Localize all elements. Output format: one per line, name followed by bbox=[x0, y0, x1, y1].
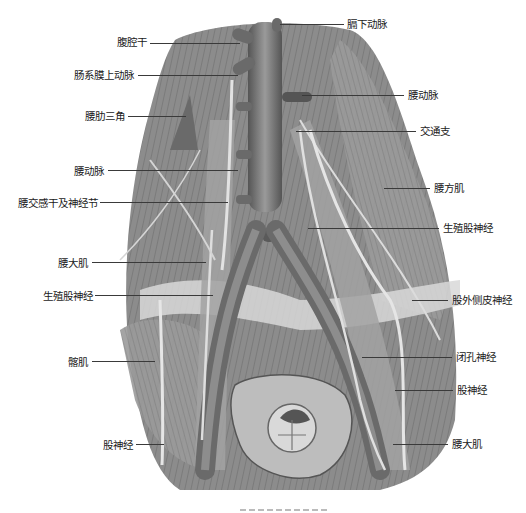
label-genitofemoral-nerve-left: 生殖股神经 bbox=[43, 290, 93, 302]
leader-superior-mesenteric-artery bbox=[138, 75, 238, 76]
label-lumbar-sympathetic-trunk: 腰交感干及神经节 bbox=[18, 197, 98, 209]
label-lumbar-artery: 腰动脉 bbox=[74, 165, 104, 177]
leader-inferior-phrenic-artery bbox=[280, 24, 344, 25]
label-communicating-branch: 交通支 bbox=[420, 125, 450, 137]
leader-lumbar-sympathetic-trunk bbox=[100, 202, 228, 203]
label-lateral-femoral-cutaneous-nerve: 股外侧皮神经 bbox=[452, 294, 512, 306]
label-femoral-nerve-left: 股神经 bbox=[103, 439, 133, 451]
leader-lumbar-artery bbox=[108, 170, 238, 171]
leader-lateral-femoral-cutaneous-nerve bbox=[412, 300, 448, 301]
label-genitofemoral-nerve-right: 生殖股神经 bbox=[443, 222, 493, 234]
leader-genitofemoral-nerve-right bbox=[308, 228, 439, 229]
label-psoas-major-left: 腰大肌 bbox=[58, 257, 88, 269]
label-psoas-major-right: 腰大肌 bbox=[452, 438, 482, 450]
leader-lumbocostal-triangle bbox=[128, 116, 186, 117]
leader-femoral-nerve-left bbox=[136, 444, 164, 445]
leader-communicating-branch bbox=[296, 131, 416, 132]
aorta bbox=[248, 22, 282, 212]
leader-genitofemoral-nerve-left bbox=[95, 295, 213, 296]
label-femoral-nerve-right: 股神经 bbox=[457, 384, 487, 396]
leader-obturator-nerve bbox=[362, 357, 452, 358]
label-quadratus-lumborum: 腰方肌 bbox=[434, 182, 464, 194]
label-superior-mesenteric-artery: 肠系膜上动脉 bbox=[74, 69, 134, 81]
leader-psoas-major-left bbox=[92, 262, 206, 263]
leader-iliacus bbox=[92, 361, 155, 362]
label-lumbar-artery-right: 腰动脉 bbox=[408, 89, 438, 101]
leader-celiac-trunk bbox=[150, 43, 240, 44]
label-celiac-trunk: 腹腔干 bbox=[117, 36, 147, 48]
leader-femoral-nerve-right bbox=[395, 390, 453, 391]
leader-psoas-major-right bbox=[393, 444, 448, 445]
label-iliacus: 髂肌 bbox=[68, 356, 88, 368]
label-lumbocostal-triangle: 腰肋三角 bbox=[85, 110, 125, 122]
leader-lumbar-artery-right bbox=[302, 95, 404, 96]
leader-quadratus-lumborum bbox=[384, 188, 430, 189]
label-inferior-phrenic-artery: 膈下动脉 bbox=[347, 18, 387, 30]
label-obturator-nerve: 闭孔神经 bbox=[456, 351, 496, 363]
figure-caption-truncated bbox=[240, 506, 340, 513]
